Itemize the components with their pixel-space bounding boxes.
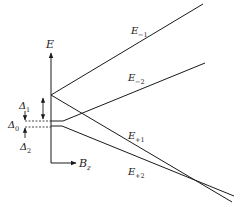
level-line-e-minus-1 — [51, 4, 203, 95]
label-e-minus-1: E −1 — [130, 25, 148, 39]
svg-text:Δ: Δ — [19, 141, 27, 152]
svg-text:B: B — [78, 157, 87, 170]
label-delta-2: Δ 2 — [19, 141, 31, 155]
svg-text:−1: −1 — [138, 31, 148, 39]
svg-text:+2: +2 — [135, 172, 145, 180]
label-e-minus-2: E −2 — [127, 72, 145, 86]
svg-text:Δ: Δ — [18, 100, 26, 111]
svg-text:z: z — [86, 164, 91, 172]
svg-text:−2: −2 — [135, 78, 145, 86]
svg-text:1: 1 — [26, 106, 30, 114]
x-axis-label: B z — [78, 157, 91, 172]
level-line-e-plus-1 — [51, 95, 232, 202]
label-e-plus-2: E +2 — [127, 166, 145, 180]
label-delta-1: Δ 1 — [18, 100, 30, 114]
svg-text:2: 2 — [27, 147, 31, 155]
svg-text:0: 0 — [15, 125, 19, 133]
y-axis-label: E — [45, 38, 54, 51]
label-delta-0: Δ 0 — [7, 119, 19, 133]
svg-text:Δ: Δ — [7, 119, 15, 130]
svg-text:+1: +1 — [135, 136, 145, 144]
energy-level-diagram: E B z E −1 E −2 E +1 E +2 Δ 1 Δ 0 Δ 2 — [0, 0, 241, 207]
